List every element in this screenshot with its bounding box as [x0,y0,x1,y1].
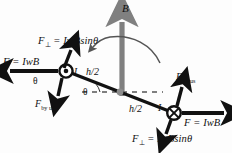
label-half-height-right: h/2 [129,104,142,114]
label-half-height-left: h/2 [86,67,99,77]
label-current-left: I [74,68,77,78]
label-force-perp-bottom: F⊥ = IwBsinθ [132,134,192,147]
label-current-right: I [158,104,161,114]
physics-diagram: F⊥ = IwBsinθ F = IwB Fby us I θ h/2 θ h/… [0,0,232,153]
label-magnetic-field: B [122,3,129,14]
label-theta-left: θ [33,77,38,87]
label-force-right: F = IwB [184,118,220,129]
label-force-perp-top: F⊥ = IwBsinθ [38,36,98,49]
label-force-left: F = IwB [3,57,39,68]
label-theta-center: θ [83,88,88,98]
force-perp-arrow-right [166,120,171,134]
rotation-curve-arrow [92,37,160,63]
label-force-by-us-left: Fby us [35,99,54,111]
force-by-us-arrow-left [58,78,62,96]
current-into-page-icon [167,106,181,120]
force-by-us-arrow-right [177,87,182,106]
label-force-by-us-right: Fby us [176,72,195,84]
